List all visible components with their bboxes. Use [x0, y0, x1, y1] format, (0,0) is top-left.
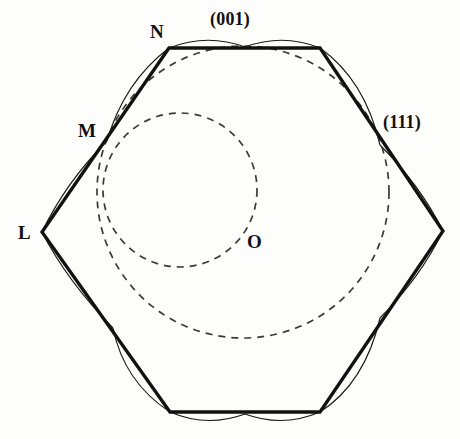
label-l: L: [18, 223, 31, 242]
figure-canvas: [0, 0, 460, 439]
crystal-habit-figure: N M L O (001) (111): [0, 0, 460, 439]
label-face-111: (111): [383, 113, 421, 131]
label-m: M: [78, 121, 96, 140]
label-n: N: [150, 22, 164, 41]
label-face-001: (001): [210, 10, 250, 28]
label-o: O: [247, 232, 262, 251]
dashed-circle-left: [103, 113, 257, 267]
